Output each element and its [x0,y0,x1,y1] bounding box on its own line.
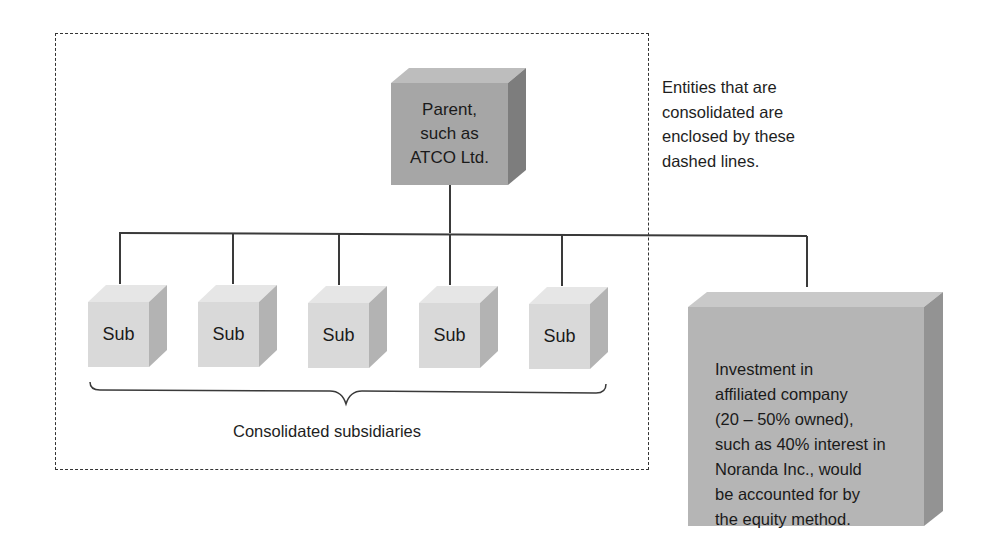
subsidiary-label: Sub [198,302,259,367]
subsidiary-label: Sub [308,303,369,368]
parent-box: Parent, such as ATCO Ltd. [391,68,526,185]
subsidiary-label: Sub [88,302,149,367]
annotation-line: dashed lines. [662,149,832,174]
annotation-line: enclosed by these [662,124,832,149]
annotation-line: consolidated are [662,100,832,125]
consolidated-subsidiaries-label: Consolidated subsidiaries [233,422,421,441]
affiliate-label-line: Noranda Inc., would [715,457,862,482]
affiliate-label-line: such as 40% interest in [715,432,886,457]
subsidiary-label: Sub [419,303,480,368]
consolidation-diagram: Parent, such as ATCO Ltd. Sub Sub [0,0,989,551]
annotation-line: Entities that are [662,75,832,100]
affiliate-label-line: be accounted for by [715,482,860,507]
sub-connector-3 [338,233,340,285]
sub-connector-5 [561,235,563,286]
parent-label-line: ATCO Ltd. [410,146,489,170]
sub-connector-4 [449,234,451,285]
affiliate-label-line: Investment in [715,357,813,382]
parent-label: Parent, such as ATCO Ltd. [391,83,508,185]
subsidiary-box: Sub [198,285,277,367]
affiliate-connector [806,236,808,287]
affiliate-label-line: (20 – 50% owned), [715,407,854,432]
parent-connector [449,185,451,233]
subsidiary-box: Sub [308,286,387,368]
subsidiary-box: Sub [529,287,608,369]
parent-label-line: Parent, [422,98,477,122]
parent-label-line: such as [420,122,479,146]
dashed-lines-annotation: Entities that are consolidated are enclo… [662,75,832,173]
subsidiary-box: Sub [88,285,167,367]
affiliate-label-line: the equity method. [715,507,851,532]
sub-connector-1 [119,232,121,284]
subsidiary-label: Sub [529,304,590,369]
sub-connector-2 [232,233,234,284]
affiliate-label-line: affiliated company [715,382,848,407]
curly-brace-icon [88,380,613,410]
affiliate-investment-box: Investment in affiliated company (20 – 5… [688,292,943,526]
subsidiary-box: Sub [419,286,498,368]
affiliate-label: Investment in affiliated company (20 – 5… [688,307,924,526]
